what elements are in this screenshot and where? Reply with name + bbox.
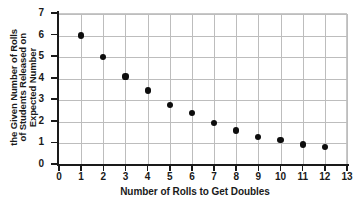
x-axis-tick-label: 6 bbox=[181, 172, 203, 182]
gridline-vertical bbox=[258, 14, 259, 165]
gridline-vertical bbox=[214, 14, 215, 165]
gridline-horizontal bbox=[59, 122, 347, 123]
data-point bbox=[300, 141, 306, 147]
gridline-horizontal bbox=[59, 14, 347, 15]
y-axis-tick-label: 5 bbox=[28, 51, 44, 61]
data-point bbox=[189, 110, 195, 116]
y-axis-tick bbox=[51, 142, 57, 144]
gridline-vertical bbox=[325, 14, 326, 165]
y-axis-tick-label: 4 bbox=[28, 73, 44, 83]
gridline-vertical bbox=[236, 14, 237, 165]
y-axis-tick bbox=[51, 120, 57, 122]
chart-figure: the Given Number of Rolls of Students Re… bbox=[0, 0, 356, 207]
y-axis-tick-label: 0 bbox=[28, 159, 44, 169]
y-axis-tick-label: 1 bbox=[28, 137, 44, 147]
x-axis-tick-label: 2 bbox=[92, 172, 114, 182]
x-axis-title: Number of Rolls to Get Doubles bbox=[40, 186, 350, 197]
plot-area bbox=[59, 13, 347, 164]
gridline-vertical bbox=[192, 14, 193, 165]
x-axis-tick-label: 0 bbox=[48, 172, 70, 182]
x-axis-line bbox=[57, 164, 349, 166]
x-axis-tick-label: 5 bbox=[159, 172, 181, 182]
x-axis-tick-label: 11 bbox=[292, 172, 314, 182]
gridline-vertical bbox=[347, 14, 348, 165]
x-axis-tick-label: 13 bbox=[336, 172, 356, 182]
data-point bbox=[145, 87, 151, 93]
y-axis-tick bbox=[51, 34, 57, 36]
x-axis-tick-label: 12 bbox=[314, 172, 336, 182]
y-axis-title: the Given Number of Rolls of Students Re… bbox=[0, 0, 46, 175]
data-point bbox=[322, 144, 328, 150]
x-axis-tick-label: 3 bbox=[114, 172, 136, 182]
y-axis-tick bbox=[51, 55, 57, 57]
data-point bbox=[78, 32, 84, 38]
y-axis-tick bbox=[51, 163, 57, 165]
x-axis-tick-label: 10 bbox=[270, 172, 292, 182]
gridline-vertical bbox=[125, 14, 126, 165]
x-axis-tick-label: 9 bbox=[247, 172, 269, 182]
y-axis-tick bbox=[51, 77, 57, 79]
gridline-vertical bbox=[103, 14, 104, 165]
y-axis-tick bbox=[51, 98, 57, 100]
gridline-horizontal bbox=[59, 36, 347, 37]
data-point bbox=[277, 137, 283, 143]
x-axis-tick-label: 1 bbox=[70, 172, 92, 182]
data-point bbox=[211, 120, 217, 126]
data-point bbox=[122, 73, 128, 79]
gridline-horizontal bbox=[59, 79, 347, 80]
y-axis-tick-label: 6 bbox=[28, 30, 44, 40]
data-point bbox=[233, 127, 239, 133]
y-axis-tick-label: 3 bbox=[28, 94, 44, 104]
y-axis-tick-label: 2 bbox=[28, 116, 44, 126]
x-axis-tick-label: 7 bbox=[203, 172, 225, 182]
y-axis-line bbox=[57, 11, 59, 166]
x-axis-tick-label: 8 bbox=[225, 172, 247, 182]
x-axis-tick-label: 4 bbox=[137, 172, 159, 182]
gridline-horizontal bbox=[59, 100, 347, 101]
y-axis-tick bbox=[51, 12, 57, 14]
data-point bbox=[167, 102, 173, 108]
data-point bbox=[100, 54, 106, 60]
data-point bbox=[255, 134, 261, 140]
gridline-vertical bbox=[170, 14, 171, 165]
y-axis-tick-label: 7 bbox=[28, 8, 44, 18]
